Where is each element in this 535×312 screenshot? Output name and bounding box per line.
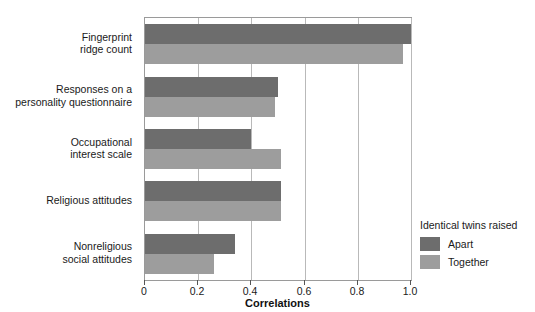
bar-apart-1: [145, 77, 278, 97]
legend-swatch-together-icon: [420, 255, 440, 269]
x-axis-title: Correlations: [144, 297, 411, 309]
category-label-nonreligious-social-attitudes: Nonreligious social attitudes: [0, 240, 138, 265]
legend: Identical twins raised Apart Together: [420, 219, 532, 273]
category-label-religious-attitudes: Religious attitudes: [0, 194, 138, 207]
category-label-responses-personality-questionnaire: Responses on a personality questionnaire: [0, 83, 138, 108]
legend-swatch-apart-icon: [420, 237, 440, 251]
bar-apart-3: [145, 181, 281, 201]
category-label-occupational-interest-scale: Occupational interest scale: [0, 136, 138, 161]
bar-chart: Fingerprint ridge count Responses on a p…: [0, 0, 535, 312]
bar-together-1: [145, 97, 275, 117]
bar-together-4: [145, 254, 214, 274]
gridline: [411, 18, 412, 280]
category-axis-labels: Fingerprint ridge count Responses on a p…: [0, 17, 138, 279]
bar-together-0: [145, 44, 403, 64]
plot-area: [144, 17, 412, 281]
bar-apart-0: [145, 24, 411, 44]
bar-apart-4: [145, 234, 235, 254]
bar-together-2: [145, 149, 281, 169]
legend-title: Identical twins raised: [420, 219, 532, 232]
legend-item-together[interactable]: Together: [420, 255, 532, 269]
legend-label-apart: Apart: [448, 238, 473, 251]
legend-item-apart[interactable]: Apart: [420, 237, 532, 251]
bar-series-container: [145, 18, 411, 280]
bar-apart-2: [145, 129, 251, 149]
bar-together-3: [145, 201, 281, 221]
category-label-fingerprint-ridge-count: Fingerprint ridge count: [0, 31, 138, 56]
legend-label-together: Together: [448, 256, 489, 269]
